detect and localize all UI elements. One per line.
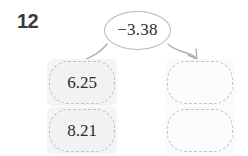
operation-oval: −3.38 bbox=[104, 11, 171, 50]
input-box-2: 8.21 bbox=[49, 109, 115, 152]
arrowhead-icon bbox=[188, 49, 197, 59]
problem-number: 12 bbox=[17, 10, 38, 32]
worksheet-problem-canvas: 12 6.25 8.21 −3.38 bbox=[0, 0, 248, 156]
operation-label: −3.38 bbox=[104, 11, 171, 50]
input-box-1: 6.25 bbox=[49, 61, 115, 104]
right-output-arrow-icon bbox=[168, 44, 196, 58]
answer-box-2[interactable] bbox=[167, 109, 233, 152]
answer-box-1[interactable] bbox=[167, 61, 233, 104]
